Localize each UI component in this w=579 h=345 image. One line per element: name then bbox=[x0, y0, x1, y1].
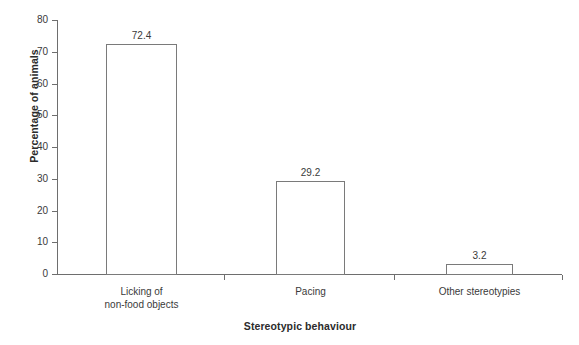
y-axis-tick bbox=[52, 84, 57, 85]
x-axis-category-label-line: Licking of bbox=[71, 286, 212, 299]
x-axis-category-label: Pacing bbox=[241, 286, 380, 299]
y-axis-tick bbox=[52, 20, 57, 21]
y-axis-tick-label: 60 bbox=[14, 79, 48, 89]
x-axis-category-label-line: non-food objects bbox=[71, 299, 212, 312]
y-axis-tick-label: 40 bbox=[14, 142, 48, 152]
bar bbox=[106, 44, 177, 275]
bar bbox=[276, 181, 345, 275]
x-axis-title: Stereotypic behaviour bbox=[140, 320, 460, 332]
bar-value-label: 72.4 bbox=[106, 30, 177, 41]
x-axis-category-label-line: Pacing bbox=[241, 286, 380, 299]
y-axis-tick-label: 10 bbox=[14, 237, 48, 247]
y-axis-tick bbox=[52, 115, 57, 116]
y-axis-line bbox=[57, 20, 58, 275]
y-axis-tick bbox=[52, 179, 57, 180]
x-axis-category-label-line: Other stereotypies bbox=[411, 286, 548, 299]
y-axis-tick-label: 20 bbox=[14, 206, 48, 216]
x-axis-category-label: Licking ofnon-food objects bbox=[71, 286, 212, 311]
x-axis-tick bbox=[394, 275, 395, 280]
x-axis-tick bbox=[224, 275, 225, 280]
bar bbox=[446, 264, 513, 275]
y-axis-tick bbox=[52, 274, 57, 275]
y-axis-tick-label: 0 bbox=[14, 269, 48, 279]
y-axis-tick bbox=[52, 211, 57, 212]
bar-value-label: 29.2 bbox=[276, 167, 345, 178]
y-axis-tick bbox=[52, 242, 57, 243]
y-axis-tick bbox=[52, 147, 57, 148]
bar-chart: Percentage of animals 01020304050607080 … bbox=[0, 0, 579, 345]
y-axis-tick-label: 80 bbox=[14, 15, 48, 25]
x-axis-category-label: Other stereotypies bbox=[411, 286, 548, 299]
y-axis-tick-label: 70 bbox=[14, 47, 48, 57]
y-axis-tick bbox=[52, 52, 57, 53]
bar-value-label: 3.2 bbox=[446, 250, 513, 261]
x-axis-tick bbox=[562, 275, 563, 280]
y-axis-tick-label: 30 bbox=[14, 174, 48, 184]
y-axis-tick-label: 50 bbox=[14, 110, 48, 120]
